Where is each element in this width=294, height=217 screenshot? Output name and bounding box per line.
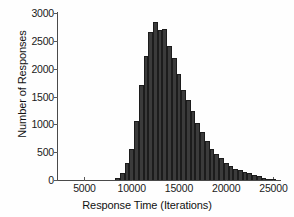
x-tick-label-25000: 25000 bbox=[243, 183, 294, 194]
y-tick-label-2000: 2000 bbox=[8, 64, 54, 74]
y-axis-title: Number of Responses bbox=[16, 0, 28, 169]
y-tick-label-2500: 2500 bbox=[8, 36, 54, 46]
y-tick-label-500: 500 bbox=[8, 147, 54, 157]
y-tick-label-3000: 3000 bbox=[8, 8, 54, 18]
y-tick-0 bbox=[54, 180, 58, 181]
histogram-figure: 050010001500200025003000 500010000150002… bbox=[0, 0, 294, 217]
y-tick-label-1000: 1000 bbox=[8, 119, 54, 129]
y-tick-label-1500: 1500 bbox=[8, 92, 54, 102]
histogram-bars bbox=[58, 13, 281, 180]
x-axis-line bbox=[57, 180, 281, 181]
histogram-bar bbox=[271, 179, 276, 180]
y-tick-label-0: 0 bbox=[8, 175, 54, 185]
x-axis-title: Response Time (Iterations) bbox=[0, 199, 294, 211]
